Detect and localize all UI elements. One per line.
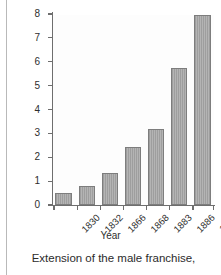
y-tick-label: 1: [20, 176, 40, 186]
y-tick: [48, 181, 52, 182]
bar: [125, 147, 141, 205]
x-tick: [192, 206, 193, 210]
x-tick: [123, 206, 124, 210]
bar: [55, 193, 71, 205]
x-tick: [53, 206, 54, 210]
x-axis-title: Year: [8, 230, 213, 241]
plot-wrapper: 012345678 1830183218661868188318861911: [44, 12, 214, 206]
x-tick: [213, 206, 214, 210]
x-tick: [77, 206, 78, 210]
y-tick: [48, 109, 52, 110]
y-tick: [48, 13, 52, 14]
y-tick-label: 0: [20, 200, 40, 210]
y-tick: [48, 85, 52, 86]
y-tick-label: 3: [20, 128, 40, 138]
y-tick-label: 7: [20, 33, 40, 43]
bar: [194, 15, 210, 205]
page-rule-line: [6, 0, 7, 275]
y-tick: [48, 157, 52, 158]
bar-chart: Number of men eligible to vote (millions…: [8, 0, 213, 245]
y-tick-label: 6: [20, 57, 40, 67]
bar: [79, 186, 95, 205]
y-tick: [48, 61, 52, 62]
x-tick-label: 1911: [217, 212, 221, 234]
y-tick: [48, 37, 52, 38]
y-tick-label: 4: [20, 105, 40, 115]
figure-container: Number of men eligible to vote (millions…: [0, 0, 221, 275]
x-tick: [169, 206, 170, 210]
y-tick: [48, 133, 52, 134]
x-tick: [100, 206, 101, 210]
bar: [171, 68, 187, 205]
y-tick-label: 5: [20, 81, 40, 91]
bar: [102, 173, 118, 205]
y-tick-label: 2: [20, 152, 40, 162]
bar: [148, 129, 164, 205]
y-tick: [48, 204, 52, 205]
x-tick: [146, 206, 147, 210]
y-axis-line: [52, 12, 53, 206]
figure-caption: Extension of the male franchise,: [8, 252, 219, 264]
y-tick-label: 8: [20, 9, 40, 19]
